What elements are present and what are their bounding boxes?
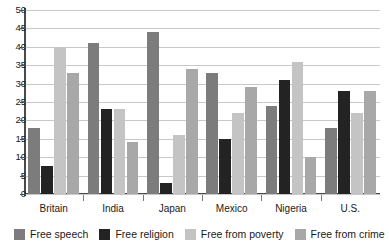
y-axis-tick: 40	[0, 42, 26, 52]
y-axis-tick-mark	[20, 102, 25, 103]
bar	[245, 87, 257, 194]
bar	[305, 157, 317, 194]
bar	[279, 80, 291, 194]
y-axis-tick: 20	[0, 115, 26, 125]
bar	[88, 43, 100, 194]
y-axis-tick: 45	[0, 23, 26, 33]
y-axis-tick: 0	[0, 189, 26, 199]
legend-item: Free speech	[14, 228, 88, 240]
bar	[232, 113, 244, 194]
legend-item: Free from poverty	[185, 228, 284, 240]
y-axis-tick-mark	[20, 47, 25, 48]
x-axis-label: U.S.	[321, 203, 380, 215]
legend-label: Free from poverty	[201, 228, 284, 240]
legend-label: Free from crime	[311, 228, 385, 240]
x-axis-label: Nigeria	[261, 203, 320, 215]
y-axis-tick-mark	[20, 157, 25, 158]
legend-swatch-icon	[295, 229, 306, 240]
bar	[219, 139, 231, 194]
bar	[147, 32, 159, 194]
y-axis-tick: 50	[0, 5, 26, 15]
bar	[28, 128, 40, 194]
bar-group	[143, 10, 202, 194]
chart-legend: Free speechFree religionFree from povert…	[14, 228, 389, 240]
legend-swatch-icon	[185, 229, 196, 240]
legend-swatch-icon	[14, 229, 25, 240]
y-axis-tick-mark	[20, 120, 25, 121]
bar	[101, 109, 113, 194]
bar	[186, 69, 198, 194]
bar-group	[261, 10, 320, 194]
y-axis-tick: 10	[0, 152, 26, 162]
bar	[67, 73, 79, 194]
y-axis-tick-mark	[20, 84, 25, 85]
legend-item: Free from crime	[295, 228, 385, 240]
x-axis-label: India	[83, 203, 142, 215]
y-axis-tick: 25	[0, 97, 26, 107]
bar	[41, 166, 53, 194]
y-axis-tick-mark	[20, 28, 25, 29]
x-axis-tick-mark	[321, 195, 322, 201]
y-axis-tick: 30	[0, 79, 26, 89]
bar	[127, 142, 139, 194]
bar	[292, 62, 304, 194]
legend-label: Free religion	[115, 228, 173, 240]
bar	[114, 109, 126, 194]
bar	[54, 47, 66, 194]
bar-group	[202, 10, 261, 194]
bar	[173, 135, 185, 194]
x-axis-label: Mexico	[202, 203, 261, 215]
bar-group	[321, 10, 380, 194]
bar	[160, 183, 172, 194]
plot-area	[24, 10, 380, 194]
x-axis-label: Japan	[143, 203, 202, 215]
y-axis-tick-mark	[20, 10, 25, 11]
bar-group	[24, 10, 83, 194]
legend-item: Free religion	[99, 228, 173, 240]
y-axis-tick-mark	[20, 176, 25, 177]
bar	[351, 113, 363, 194]
bar	[266, 106, 278, 194]
legend-label: Free speech	[30, 228, 88, 240]
legend-swatch-icon	[99, 229, 110, 240]
bar	[325, 128, 337, 194]
x-axis-tick-mark	[83, 195, 84, 201]
x-axis-tick-mark	[261, 195, 262, 201]
y-axis-tick: 5	[0, 171, 26, 181]
y-axis-tick-mark	[20, 65, 25, 66]
bar-group	[83, 10, 142, 194]
bar-chart: 50454035302520151050 BritainIndiaJapanMe…	[0, 0, 389, 247]
y-axis-tick: 15	[0, 134, 26, 144]
y-axis-tick-mark	[20, 139, 25, 140]
y-axis-tick-mark	[20, 194, 25, 195]
bar	[338, 91, 350, 194]
y-axis-tick: 35	[0, 60, 26, 70]
x-axis-tick-mark	[143, 195, 144, 201]
x-axis-tick-mark	[202, 195, 203, 201]
bar	[206, 73, 218, 194]
x-axis-label: Britain	[24, 203, 83, 215]
bar	[364, 91, 376, 194]
